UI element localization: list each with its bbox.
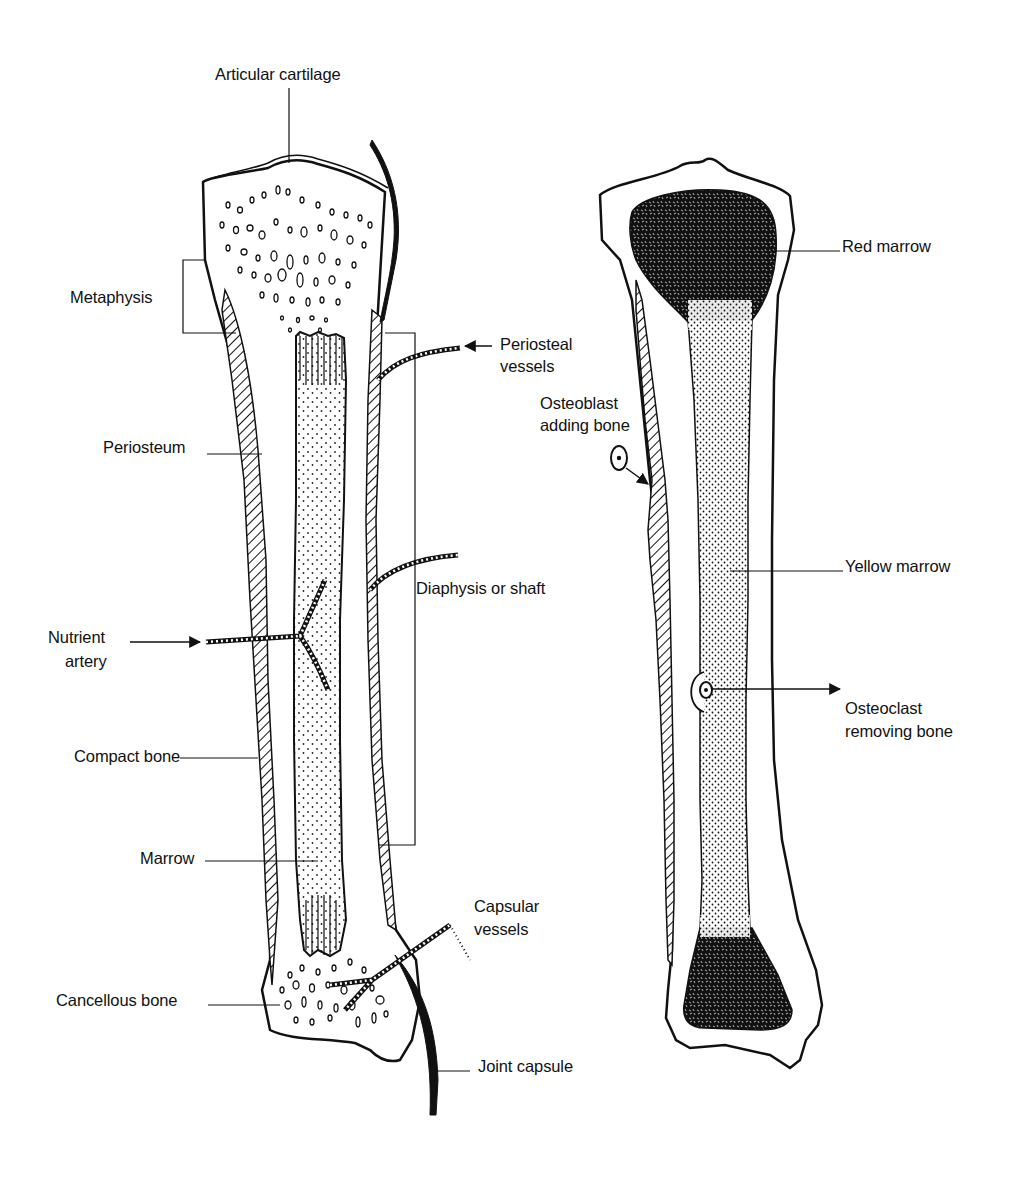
label-nutrient-artery-1: Nutrient xyxy=(48,627,105,648)
label-periosteal-vessels-1: Periosteal xyxy=(500,334,572,355)
label-cancellous-bone: Cancellous bone xyxy=(56,990,177,1011)
label-articular-cartilage: Articular cartilage xyxy=(215,64,341,85)
label-periosteum: Periosteum xyxy=(103,437,185,458)
marrow-cavity xyxy=(294,332,346,956)
label-periosteal-vessels-2: vessels xyxy=(500,356,554,377)
label-capsular-vessels-1: Capsular xyxy=(474,896,539,917)
label-diaphysis: Diaphysis or shaft xyxy=(416,578,545,599)
periosteal-vessel xyxy=(378,348,460,380)
label-osteoclast-1: Osteoclast xyxy=(845,698,922,719)
label-osteoblast-2: adding bone xyxy=(540,415,630,436)
label-capsular-vessels-2: vessels xyxy=(474,919,528,940)
label-compact-bone: Compact bone xyxy=(74,746,180,767)
label-joint-capsule: Joint capsule xyxy=(478,1056,573,1077)
label-yellow-marrow: Yellow marrow xyxy=(845,556,950,577)
label-metaphysis: Metaphysis xyxy=(70,287,152,308)
label-osteoblast-1: Osteoblast xyxy=(540,393,618,414)
label-osteoclast-2: removing bone xyxy=(845,721,953,742)
label-nutrient-artery-2: artery xyxy=(65,651,107,672)
label-marrow: Marrow xyxy=(140,848,194,869)
right-bone xyxy=(600,159,822,1068)
label-red-marrow: Red marrow xyxy=(842,236,931,257)
left-bone xyxy=(203,140,470,1115)
